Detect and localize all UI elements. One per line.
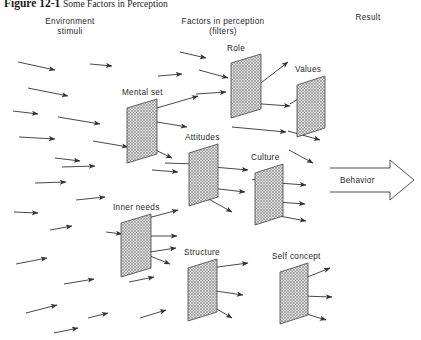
stimulus-arrow [88, 313, 108, 318]
figure-container: Figure 12-1 Some Factors in Perception E… [0, 0, 421, 340]
filter-label-attitudes: Attitudes [185, 133, 220, 142]
filter-label-role: Role [227, 44, 245, 53]
stimulus-arrow [50, 226, 72, 230]
stimulus-arrow [26, 305, 57, 313]
stimulus-arrow [18, 62, 55, 70]
stimulus-arrow [14, 212, 38, 213]
stimulus-arrow [19, 137, 55, 139]
stimulus-arrow [35, 182, 66, 183]
filter-label-inner-needs: Inner needs [113, 203, 160, 212]
stimulus-arrow [58, 117, 100, 124]
filter-panel-inner-needs [121, 214, 151, 277]
filter-panel-values [297, 76, 325, 137]
filter-panel-attitudes [189, 144, 218, 206]
stimulus-arrow [150, 248, 176, 252]
stimulus-arrow-group [13, 52, 206, 333]
filter-label-culture: Culture [251, 153, 280, 162]
stimulus-arrow [55, 158, 80, 161]
stimulus-arrow [93, 141, 128, 147]
stimulus-arrow [28, 88, 68, 96]
behavior-label: Behavior [340, 176, 375, 185]
stimulus-arrow [140, 310, 166, 318]
stimulus-arrow [106, 232, 122, 234]
stimulus-arrow [90, 64, 112, 66]
stimulus-arrow [16, 258, 47, 264]
stimulus-arrow [64, 279, 94, 284]
filter-label-self-concept: Self concept [272, 252, 321, 261]
filter-arrow [199, 70, 228, 78]
filter-arrow [257, 62, 288, 86]
stimulus-arrow [54, 328, 78, 333]
stimulus-arrow [129, 277, 154, 282]
filter-label-mental-set: Mental set [122, 88, 163, 97]
filter-arrow [289, 150, 313, 163]
filter-panel-role [231, 54, 261, 118]
filter-arrow [232, 127, 286, 132]
filter-label-structure: Structure [184, 248, 220, 257]
diagram-artwork [0, 0, 421, 340]
stimulus-arrow [180, 52, 206, 58]
filter-panel-self-concept [280, 263, 308, 324]
filter-panel-structure [188, 259, 217, 321]
filter-arrow [196, 92, 226, 94]
stimulus-arrow [158, 74, 182, 76]
filter-panel-culture [255, 164, 283, 225]
stimulus-arrow [62, 166, 95, 167]
filter-label-values: Values [295, 65, 321, 74]
stimulus-arrow [76, 197, 105, 200]
filter-panel-mental-set [127, 99, 157, 163]
stimulus-arrow [152, 170, 178, 172]
stimulus-arrow [13, 111, 38, 114]
